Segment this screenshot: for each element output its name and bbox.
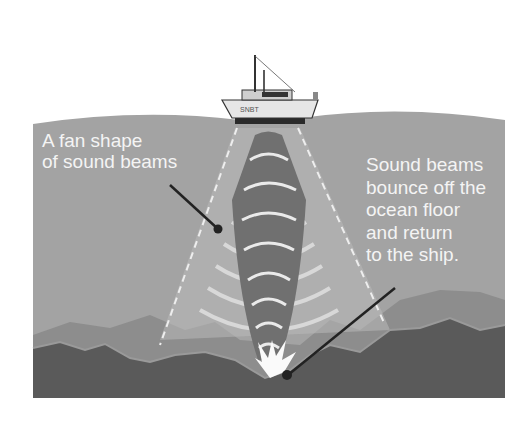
ship-name: SNBT xyxy=(240,106,259,113)
fan-shape-label: A fan shape of sound beams xyxy=(42,130,177,172)
bounce-label: Sound beams bounce off the ocean floor a… xyxy=(366,154,486,267)
ship-icon: SNBT xyxy=(222,55,318,124)
bounce-label-pointer-dot xyxy=(282,370,292,380)
fan-label-pointer-dot xyxy=(214,225,223,234)
